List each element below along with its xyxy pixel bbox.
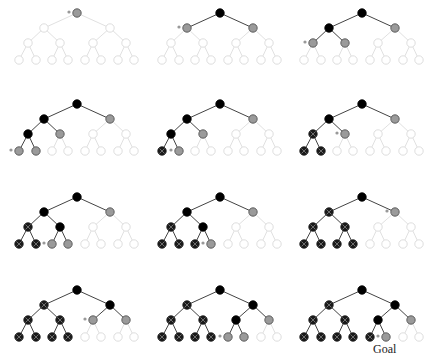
tree-node-unexplored	[130, 333, 138, 341]
tree-edge	[220, 197, 253, 212]
tree-node-frontier	[265, 316, 273, 324]
tree-node-unexplored	[349, 147, 357, 155]
current-node-marker-icon	[169, 148, 172, 151]
search-step-panel	[158, 100, 281, 155]
tree-node-unexplored	[114, 147, 122, 155]
search-tree-diagram	[0, 0, 433, 360]
tree-node-unexplored	[97, 56, 105, 64]
tree-node-frontier	[32, 147, 40, 155]
tree-node-unexplored	[399, 56, 407, 64]
tree-node-unexplored	[374, 130, 382, 138]
tree-node-unexplored	[130, 147, 138, 155]
tree-node-expanded	[216, 100, 224, 108]
tree-node-unexplored	[64, 147, 72, 155]
tree-node-frontier	[309, 39, 317, 47]
tree-edge	[362, 290, 395, 305]
tree-edge	[77, 197, 110, 212]
tree-edge	[329, 104, 362, 119]
search-step-panel	[15, 9, 138, 64]
tree-node-unexplored	[48, 56, 56, 64]
tree-node-unexplored	[114, 333, 122, 341]
tree-node-unexplored	[48, 147, 56, 155]
tree-node-frontier	[122, 316, 130, 324]
tree-node-expanded	[73, 193, 81, 201]
tree-node-frontier	[56, 130, 64, 138]
tree-edge	[329, 197, 362, 212]
tree-node-unexplored	[207, 147, 215, 155]
tree-edge	[220, 13, 253, 28]
tree-node-frontier	[183, 24, 191, 32]
current-node-marker-icon	[177, 25, 180, 28]
tree-node-frontier	[207, 240, 215, 248]
tree-node-unexplored	[122, 130, 130, 138]
tree-edge	[187, 13, 220, 28]
tree-node-expanded	[183, 115, 191, 123]
tree-node-unexplored	[257, 333, 265, 341]
tree-node-expanded	[73, 286, 81, 294]
tree-node-unexplored	[64, 56, 72, 64]
tree-node-frontier	[106, 115, 114, 123]
tree-node-expanded	[24, 130, 32, 138]
tree-edge	[44, 290, 77, 305]
tree-node-unexplored	[40, 24, 48, 32]
tree-node-expanded	[40, 115, 48, 123]
tree-edge	[44, 197, 77, 212]
tree-node-expanded	[106, 301, 114, 309]
tree-node-frontier	[175, 147, 183, 155]
tree-node-unexplored	[349, 56, 357, 64]
tree-node-unexplored	[317, 56, 325, 64]
current-node-marker-icon	[218, 334, 221, 337]
tree-node-unexplored	[224, 56, 232, 64]
tree-edge	[329, 290, 362, 305]
tree-edge	[220, 290, 253, 305]
tree-node-unexplored	[240, 147, 248, 155]
tree-node-frontier	[249, 115, 257, 123]
tree-node-unexplored	[81, 333, 89, 341]
tree-node-unexplored	[232, 39, 240, 47]
search-step-panel	[300, 9, 423, 64]
search-step-panel	[158, 286, 281, 341]
tree-node-unexplored	[15, 56, 23, 64]
tree-edge	[77, 104, 110, 119]
tree-node-frontier	[199, 130, 207, 138]
tree-node-unexplored	[24, 39, 32, 47]
tree-node-unexplored	[191, 147, 199, 155]
tree-node-unexplored	[89, 223, 97, 231]
search-step-panel	[15, 193, 138, 248]
tree-node-expanded	[199, 223, 207, 231]
tree-node-expanded	[391, 301, 399, 309]
goal-label: Goal	[373, 342, 396, 357]
tree-node-unexplored	[97, 333, 105, 341]
tree-node-expanded	[374, 316, 382, 324]
search-step-panel	[9, 100, 138, 155]
tree-node-unexplored	[257, 56, 265, 64]
current-node-marker-icon	[335, 131, 338, 134]
current-node-marker-icon	[376, 334, 379, 337]
current-node-marker-icon	[385, 209, 388, 212]
tree-node-unexplored	[207, 56, 215, 64]
tree-node-frontier	[249, 24, 257, 32]
tree-node-unexplored	[374, 39, 382, 47]
tree-node-expanded	[358, 9, 366, 17]
tree-node-unexplored	[89, 39, 97, 47]
tree-node-unexplored	[333, 56, 341, 64]
tree-node-unexplored	[130, 240, 138, 248]
tree-node-expanded	[73, 100, 81, 108]
tree-edge	[44, 104, 77, 119]
tree-edge	[187, 290, 220, 305]
tree-node-frontier	[341, 130, 349, 138]
tree-node-expanded	[325, 115, 333, 123]
tree-node-unexplored	[232, 223, 240, 231]
tree-node-unexplored	[81, 147, 89, 155]
tree-node-frontier	[64, 240, 72, 248]
tree-edge	[77, 13, 110, 28]
search-step-panel	[300, 100, 423, 155]
tree-node-unexplored	[399, 333, 407, 341]
tree-node-unexplored	[273, 147, 281, 155]
current-node-marker-icon	[42, 241, 45, 244]
tree-node-expanded	[249, 301, 257, 309]
tree-edge	[362, 104, 395, 119]
tree-node-unexplored	[399, 147, 407, 155]
tree-node-frontier	[382, 333, 390, 341]
tree-node-frontier	[89, 316, 97, 324]
